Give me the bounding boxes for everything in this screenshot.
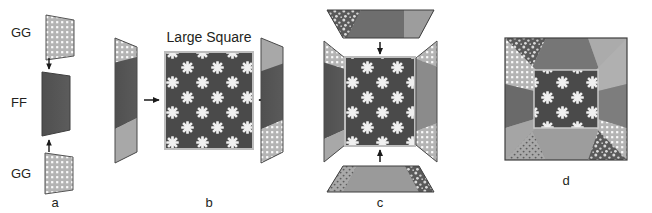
panel-a-label-gg-bottom: GG bbox=[11, 166, 31, 181]
panel-b-center-square bbox=[165, 52, 253, 149]
panel-c-bottom-trapezoid bbox=[325, 164, 437, 196]
panel-d-caption: d bbox=[562, 173, 569, 188]
panel-b-left-strip bbox=[113, 36, 141, 168]
panel-a-label-ff: FF bbox=[11, 95, 27, 110]
panel-d-completed-block bbox=[505, 38, 627, 160]
panel-a-label-gg-top: GG bbox=[11, 25, 31, 40]
panel-c-right-strip bbox=[414, 39, 440, 166]
panel-b-right-strip bbox=[259, 36, 287, 168]
panel-a-caption: a bbox=[51, 195, 59, 210]
panel-b-title-large-square: Large Square bbox=[167, 29, 252, 45]
panel-b-caption: b bbox=[205, 195, 212, 210]
panel-a-piece-ff-middle bbox=[42, 72, 70, 136]
quilt-block-construction-figure: GG FF GG a Large Square bbox=[0, 0, 652, 213]
panel-a-piece-gg-bottom bbox=[45, 153, 73, 194]
panel-c-center-square bbox=[345, 57, 415, 146]
panel-a-piece-gg-top bbox=[46, 15, 74, 60]
panel-c-caption: c bbox=[377, 195, 384, 210]
